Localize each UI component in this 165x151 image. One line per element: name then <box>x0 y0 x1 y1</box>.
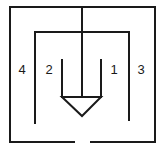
label-1: 1 <box>110 62 117 77</box>
label-3: 3 <box>137 62 144 77</box>
enclosure-diagram: 4 2 1 3 <box>0 0 165 151</box>
label-2: 2 <box>45 62 52 77</box>
label-4: 4 <box>18 62 25 77</box>
